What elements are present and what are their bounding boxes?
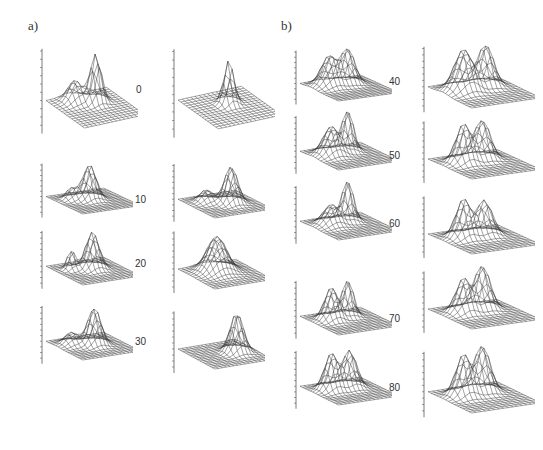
depth-label-50: 50 (389, 150, 400, 161)
surface-ph-40 (282, 45, 392, 115)
surface-o2-10 (160, 158, 265, 233)
surface-ph-0 (28, 40, 138, 150)
surface-ph-20 (28, 225, 133, 300)
surface-o2-30 (160, 305, 265, 385)
depth-label-80: 80 (389, 382, 400, 393)
surface-ph-80 (282, 345, 392, 420)
depth-label-40: 40 (389, 76, 400, 87)
depth-label-10: 10 (135, 194, 146, 205)
surface-o2-60 (410, 190, 535, 270)
surface-ph-60 (282, 180, 392, 255)
surface-ph-30 (28, 300, 133, 375)
surface-ph-50 (282, 110, 392, 185)
surface-o2-70 (410, 265, 535, 345)
depth-label-20: 20 (135, 258, 146, 269)
depth-label-60: 60 (389, 218, 400, 229)
surface-o2-20 (160, 225, 265, 305)
depth-label-70: 70 (389, 313, 400, 324)
depth-label-30: 30 (135, 336, 146, 347)
depth-label-0: 0 (136, 84, 142, 95)
surface-o2-50 (410, 115, 535, 195)
surface-o2-40 (410, 40, 535, 125)
surface-ph-70 (282, 275, 392, 350)
surface-o2-80 (410, 345, 535, 430)
surface-o2-0 (160, 40, 275, 155)
panel-b-label: b) (281, 18, 292, 34)
panel-a-label: a) (28, 18, 38, 34)
surface-ph-10 (28, 158, 133, 228)
